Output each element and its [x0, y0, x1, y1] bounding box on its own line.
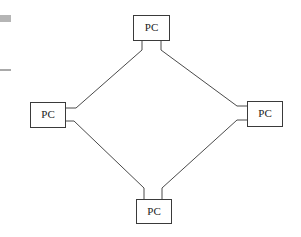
ring-network-diagram: PC PC PC PC [0, 0, 301, 237]
node-label: PC [258, 107, 271, 119]
node-label: PC [41, 108, 54, 120]
node-left: PC [31, 103, 66, 128]
link-left-bottom [65, 121, 144, 199]
link-right-bottom [162, 120, 247, 199]
node-label: PC [145, 21, 158, 33]
node-right: PC [248, 102, 283, 127]
node-label: PC [147, 205, 160, 217]
edge-bar [0, 15, 11, 22]
link-top-right [161, 40, 247, 106]
link-top-left [65, 40, 142, 108]
node-bottom: PC [137, 200, 172, 224]
node-top: PC [134, 16, 170, 41]
links [65, 40, 247, 199]
